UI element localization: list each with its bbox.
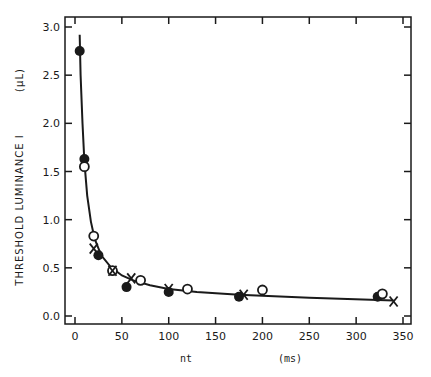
open-circle-marker — [136, 276, 145, 285]
filled-circle-marker — [75, 46, 85, 56]
x-tick-label: 50 — [115, 330, 129, 343]
threshold-luminance-chart: 050100150200250300350 0.00.51.01.52.02.5… — [0, 0, 431, 377]
filled-circle-marker — [93, 250, 103, 260]
y-tick-label: 0.0 — [43, 310, 61, 323]
x-marker — [90, 244, 98, 254]
x-tick-label: 200 — [252, 330, 273, 343]
y-axis-ticks: 0.00.51.01.52.02.53.0 — [43, 21, 412, 323]
y-axis-title: THRESHOLD LUMINANCE I — [14, 134, 25, 286]
y-axis-unit: (µL) — [14, 68, 25, 92]
open-circle-marker — [258, 285, 267, 294]
y-tick-label: 0.5 — [43, 262, 61, 275]
filled-circle-marker — [122, 282, 132, 292]
x-tick-label: 100 — [158, 330, 179, 343]
fit-curve — [80, 35, 394, 301]
x-axis-unit: (ms) — [278, 353, 302, 364]
y-tick-label: 1.0 — [43, 214, 61, 227]
x-tick-label: 250 — [299, 330, 320, 343]
data-markers — [75, 46, 398, 306]
x-axis-title: nt — [180, 353, 192, 364]
y-tick-label: 2.0 — [43, 117, 61, 130]
x-tick-label: 150 — [205, 330, 226, 343]
x-tick-label: 300 — [346, 330, 367, 343]
y-tick-label: 3.0 — [43, 21, 61, 34]
open-circle-marker — [80, 162, 89, 171]
plot-frame — [65, 17, 411, 324]
open-circle-marker — [89, 232, 98, 241]
x-tick-label: 0 — [72, 330, 79, 343]
y-tick-label: 2.5 — [43, 69, 61, 82]
x-tick-label: 350 — [393, 330, 414, 343]
y-tick-label: 1.5 — [43, 166, 61, 179]
x-marker — [390, 297, 398, 307]
open-circle-marker — [378, 289, 387, 298]
open-circle-marker — [183, 285, 192, 294]
